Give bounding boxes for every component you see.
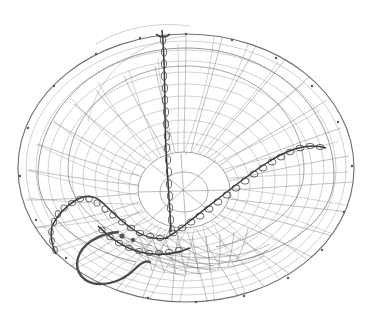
center-entry-hole: [138, 152, 230, 228]
chain-knot-2: [131, 238, 135, 242]
chain-knot: [119, 233, 124, 238]
image-canvas: Collapsible wire mesh fishing net trap P…: [0, 0, 369, 320]
wire-mesh-trap-illustration: Collapsible wire mesh fishing net trap P…: [0, 0, 369, 320]
